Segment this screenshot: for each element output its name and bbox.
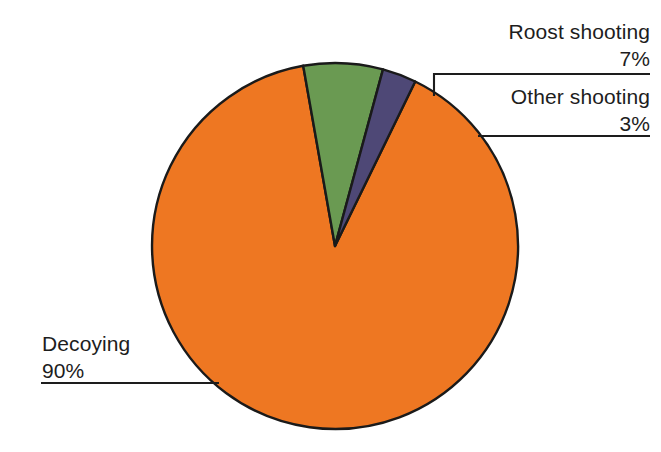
callout-roost-shooting: Roost shooting 7% (390, 18, 650, 72)
callout-roost-shooting-percent: 7% (390, 45, 650, 72)
callout-other-shooting-percent: 3% (390, 110, 650, 137)
callout-decoying: Decoying 90% (42, 330, 242, 384)
callout-roost-shooting-label: Roost shooting (390, 18, 650, 45)
pie-chart-figure: Roost shooting 7% Other shooting 3% Deco… (0, 0, 661, 452)
callout-decoying-percent: 90% (42, 357, 242, 384)
callout-other-shooting-label: Other shooting (390, 83, 650, 110)
callout-other-shooting: Other shooting 3% (390, 83, 650, 137)
callout-decoying-label: Decoying (42, 330, 242, 357)
